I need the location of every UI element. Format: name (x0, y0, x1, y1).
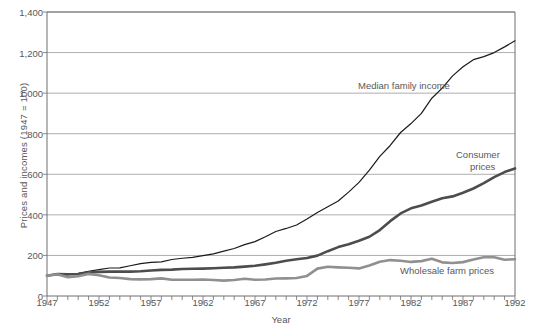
series-line-1 (47, 168, 515, 275)
plot-area (0, 0, 533, 334)
series-line-0 (47, 41, 515, 276)
series-annotation: Consumer (456, 149, 500, 161)
series-annotation: Wholesale farm prices (400, 265, 494, 277)
series-annotation: prices (470, 161, 495, 173)
series-annotation: Median family income (358, 80, 450, 92)
chart-figure: Prices and incomes (1947 = 100) Year 020… (0, 0, 533, 334)
